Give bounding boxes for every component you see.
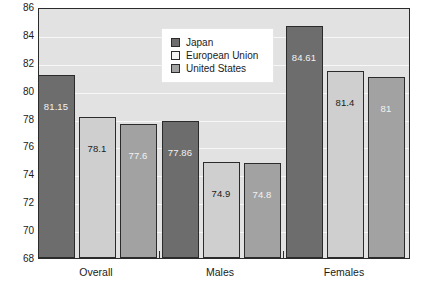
x-axis-tick-label: Females xyxy=(324,266,364,278)
bar: 81.4 xyxy=(327,71,364,258)
x-axis-tick-label: Males xyxy=(206,266,234,278)
legend-item: United States xyxy=(171,62,258,75)
y-axis-tick-label: 86 xyxy=(0,3,34,13)
bar: 77.6 xyxy=(120,124,157,258)
bar: 77.86 xyxy=(162,121,199,258)
bar-value-label: 81 xyxy=(381,104,392,257)
bar-value-label: 81.15 xyxy=(44,102,68,257)
y-axis-tick-label: 70 xyxy=(0,226,34,236)
y-axis: 68707274767880828486 xyxy=(0,8,34,259)
legend-item: European Union xyxy=(171,49,258,62)
x-axis-tick-label: Overall xyxy=(79,266,112,278)
bar: 84.61 xyxy=(286,26,323,258)
bar-value-label: 74.8 xyxy=(253,190,272,257)
y-axis-tick-label: 84 xyxy=(0,31,34,41)
bar: 74.9 xyxy=(203,162,240,258)
y-axis-tick-label: 74 xyxy=(0,170,34,180)
bar-value-label: 84.61 xyxy=(292,53,316,257)
bar-chart-figure: 68707274767880828486 81.1578.177.677.867… xyxy=(0,0,427,298)
bar: 78.1 xyxy=(79,117,116,258)
bar: 81 xyxy=(368,77,405,258)
y-axis-tick-label: 76 xyxy=(0,142,34,152)
x-axis: OverallMalesFemales xyxy=(38,266,410,286)
bar: 81.15 xyxy=(38,75,75,258)
bar-value-label: 77.86 xyxy=(168,148,192,257)
legend-swatch-icon xyxy=(171,64,180,73)
y-axis-tick-label: 68 xyxy=(0,254,34,264)
y-axis-tick-label: 72 xyxy=(0,198,34,208)
y-axis-tick-label: 78 xyxy=(0,115,34,125)
y-axis-tick-label: 82 xyxy=(0,59,34,69)
legend-swatch-icon xyxy=(171,51,180,60)
bar-value-label: 78.1 xyxy=(88,144,107,257)
legend-swatch-icon xyxy=(171,38,180,47)
x-axis-group-tick xyxy=(159,251,160,258)
bar: 74.8 xyxy=(244,163,281,258)
bar-value-label: 77.6 xyxy=(129,151,148,257)
bar-value-label: 81.4 xyxy=(336,98,355,257)
legend-item-label: United States xyxy=(186,63,246,74)
legend-item: Japan xyxy=(171,36,258,49)
legend-item-label: Japan xyxy=(186,37,213,48)
chart-legend: JapanEuropean UnionUnited States xyxy=(162,29,273,82)
y-axis-tick-label: 80 xyxy=(0,87,34,97)
x-axis-group-tick xyxy=(283,251,284,258)
bar-value-label: 74.9 xyxy=(212,189,231,257)
legend-item-label: European Union xyxy=(186,50,258,61)
